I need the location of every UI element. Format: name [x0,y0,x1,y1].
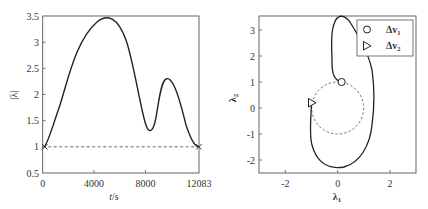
unit-circle [312,82,364,134]
left-y-ticks [43,42,146,173]
ytick-label: 1 [34,141,39,152]
left-y-tick-labels: 0.5 1 1.5 2 2.5 3 3.5 [27,11,40,179]
xtick-label: 8000 [136,178,156,189]
right-x-tick-labels: -2 0 2 [281,178,392,189]
ytick-label: 1.5 [27,115,40,126]
ytick-label: -2 [247,155,255,166]
right-x-axis-label: λ1 [333,191,342,204]
xtick-label: -2 [281,178,289,189]
xtick-label: 0 [335,178,340,189]
right-plot: 3 2 1 0 -1 -2 -2 0 2 λ1 λ2 Δv1 Δv2 [227,16,416,204]
ytick-label: 3 [250,25,255,36]
ytick-label: -1 [247,129,255,140]
legend: Δv1 Δv2 [357,20,413,56]
ytick-label: 1 [250,77,255,88]
ytick-label: 2.5 [27,63,40,74]
legend-circle-icon [364,26,371,33]
triangle-marker-dv2 [309,99,317,108]
xtick-label: 2 [388,178,393,189]
left-axes-frame [43,16,199,173]
left-plot: 0.5 1 1.5 2 2.5 3 3.5 0 4000 8000 12083 … [8,11,212,203]
legend-box [357,20,413,56]
ytick-label: 2 [250,51,255,62]
ytick-label: 0.5 [27,168,40,179]
ytick-label: 3 [34,37,39,48]
abs-lambda-curve [45,18,199,147]
ytick-label: 3.5 [27,11,40,22]
circle-marker-dv1 [338,78,345,85]
left-x-tick-labels: 0 4000 8000 12083 [40,178,211,189]
right-y-axis-label: λ2 [227,93,240,102]
xtick-label: 4000 [84,178,104,189]
ytick-label: 2 [34,89,39,100]
xtick-label: 12083 [187,178,212,189]
figure: 0.5 1 1.5 2 2.5 3 3.5 0 4000 8000 12083 … [0,0,428,209]
ytick-label: 0 [250,103,255,114]
right-y-tick-labels: 3 2 1 0 -1 -2 [247,25,255,166]
xtick-label: 0 [40,178,45,189]
left-y-axis-label: |λ| [8,91,19,100]
left-x-axis-label: t/s [109,191,119,202]
